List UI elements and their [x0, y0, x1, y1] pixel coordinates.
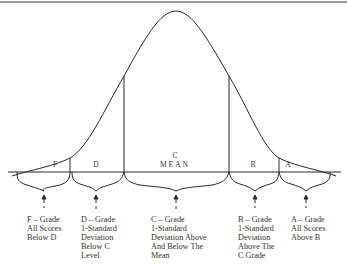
- description-line: Below D: [27, 234, 61, 243]
- arrow-up-icon: [94, 195, 98, 209]
- arrow-up-icon: [253, 195, 257, 208]
- brace-a: [279, 172, 330, 191]
- segment-label-b: B: [250, 160, 255, 169]
- description-line: Mean: [151, 252, 207, 261]
- segment-label-mean: MEAN: [160, 160, 190, 169]
- arrow-up-icon: [174, 195, 178, 209]
- arrow-up-icon: [42, 195, 46, 208]
- segment-label-c: C: [172, 151, 177, 160]
- description-d: D – Grade 1-Standard Deviation Below C L…: [81, 216, 117, 261]
- description-line: Above B: [291, 234, 325, 243]
- segment-label-a: A: [285, 160, 291, 169]
- brace-f: [17, 172, 70, 191]
- segment-label-f: F: [53, 160, 57, 169]
- brace-c: [124, 172, 229, 191]
- arrow-up-icon: [304, 195, 308, 208]
- segment-label-d: D: [93, 160, 99, 169]
- description-c: C – Grade 1-Standard Deviation Above And…: [151, 216, 207, 261]
- description-f: F – Grade All Scores Below D: [27, 216, 61, 243]
- brace-b: [229, 172, 279, 191]
- description-line: Level: [81, 252, 117, 261]
- brace-d: [72, 172, 124, 191]
- description-line: C Grade: [238, 252, 274, 261]
- description-b: B – Grade 1-Standard Deviation Above The…: [238, 216, 274, 261]
- description-a: A – Grade All Scores Above B: [291, 216, 325, 243]
